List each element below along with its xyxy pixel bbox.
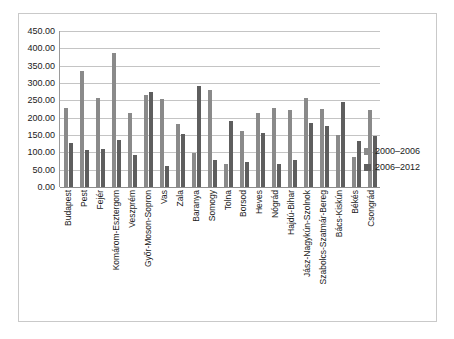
bar-series-1[interactable] (80, 71, 84, 187)
bar-series-1[interactable] (336, 135, 340, 187)
x-axis-label-slot: Szabolcs-Szatmár-Bereg (315, 190, 331, 290)
x-axis-label-slot: Budapest (60, 190, 76, 290)
bar-series-1[interactable] (144, 95, 148, 187)
bar-group (348, 31, 364, 187)
bar-series-1[interactable] (304, 98, 308, 187)
bar-series-2[interactable] (117, 140, 121, 187)
legend-label: 2006–2012 (375, 163, 420, 172)
chart-frame: 450.00400.00350.00300.00250.00200.00150.… (18, 13, 437, 322)
y-axis-tick-label: 50.00 (0, 166, 55, 175)
bar-series-1[interactable] (64, 108, 68, 187)
bar-series-2[interactable] (325, 126, 329, 187)
bar-series-2[interactable] (261, 133, 265, 187)
bar-series-1[interactable] (176, 124, 180, 187)
y-axis-tick-label: 300.00 (0, 79, 55, 88)
bar-group (109, 31, 125, 187)
bar-series-2[interactable] (309, 123, 313, 187)
x-axis-label-slot: Fejér (92, 190, 108, 290)
legend-swatch-icon (364, 164, 371, 171)
bar-group (316, 31, 332, 187)
bar-group (268, 31, 284, 187)
bar-series-1[interactable] (128, 113, 132, 187)
bar-series-2[interactable] (85, 150, 89, 187)
y-axis-tick-label: 400.00 (0, 44, 55, 53)
bar-series-2[interactable] (341, 102, 345, 187)
bar-group (252, 31, 268, 187)
x-axis-category-label: Fejér (96, 190, 105, 209)
x-axis-label-slot: Csongrád (363, 190, 379, 290)
x-axis-category-label: Borsod (239, 190, 248, 217)
bar-series-1[interactable] (256, 113, 260, 187)
bar-series-2[interactable] (197, 86, 201, 187)
y-axis-tick-label: 0.00 (0, 183, 55, 192)
x-axis-category-label: Veszprém (128, 190, 137, 228)
bar-group (157, 31, 173, 187)
plot-area (59, 31, 379, 187)
bar-group (93, 31, 109, 187)
x-axis-label-slot: Jász-Nagykún-Szolnok (299, 190, 315, 290)
bar-series-2[interactable] (101, 149, 105, 187)
x-axis-category-label: Tolna (223, 190, 232, 210)
x-axis-label-slot: Borsod (235, 190, 251, 290)
bar-group (61, 31, 77, 187)
bar-series-2[interactable] (69, 143, 73, 187)
bar-series-2[interactable] (357, 141, 361, 187)
bar-series-1[interactable] (224, 164, 228, 187)
bar-series-1[interactable] (160, 99, 164, 187)
x-axis-label-slot: Bács-Kiskún (331, 190, 347, 290)
x-axis-category-label: Szabolcs-Szatmár-Bereg (319, 190, 328, 284)
y-axis-tick-label: 250.00 (0, 96, 55, 105)
bar-group (141, 31, 157, 187)
bar-series-1[interactable] (288, 110, 292, 187)
bar-series-1[interactable] (240, 131, 244, 187)
x-axis-label-slot: Pest (76, 190, 92, 290)
x-axis-category-label: Vas (159, 190, 168, 204)
bar-series-1[interactable] (192, 153, 196, 187)
x-axis-label-slot: Komárom-Esztergom (108, 190, 124, 290)
x-axis-category-label: Hajdú-Bihar (287, 190, 296, 235)
x-axis-category-label: Baranya (191, 190, 200, 222)
bar-group (300, 31, 316, 187)
x-axis-label-slot: Zala (172, 190, 188, 290)
x-axis-label-slot: Veszprém (124, 190, 140, 290)
bar-series-1[interactable] (96, 98, 100, 187)
x-axis-category-label: Bács-Kiskún (335, 190, 344, 237)
bar-series-2[interactable] (133, 155, 137, 187)
legend-label: 2000–2006 (375, 147, 420, 156)
legend-item[interactable]: 2000–2006 (364, 147, 420, 156)
bar-series-2[interactable] (181, 134, 185, 187)
legend-swatch-icon (364, 148, 371, 155)
x-axis-label-slot: Békés (347, 190, 363, 290)
bar-series-1[interactable] (208, 90, 212, 187)
axis-baseline (60, 187, 380, 188)
bar-series-1[interactable] (320, 109, 324, 187)
bar-series-1[interactable] (112, 53, 116, 187)
x-axis-category-labels: BudapestPestFejérKomárom-EsztergomVeszpr… (60, 190, 379, 290)
bar-series-2[interactable] (277, 164, 281, 187)
bar-series-1[interactable] (272, 108, 276, 187)
plot-region: 450.00400.00350.00300.00250.00200.00150.… (59, 31, 379, 187)
y-axis-tick-label: 150.00 (0, 131, 55, 140)
bar-series-2[interactable] (149, 92, 153, 187)
x-axis-category-label: Budapest (64, 190, 73, 226)
bar-group (236, 31, 252, 187)
x-axis-category-label: Komárom-Esztergom (112, 190, 121, 270)
y-axis-tick-label: 200.00 (0, 114, 55, 123)
y-axis-tick-label: 100.00 (0, 148, 55, 157)
bar-group (189, 31, 205, 187)
bar-series-2[interactable] (229, 121, 233, 187)
legend-item[interactable]: 2006–2012 (364, 163, 420, 172)
bar-group (332, 31, 348, 187)
bar-series-2[interactable] (213, 160, 217, 187)
bar-series-2[interactable] (165, 166, 169, 187)
x-axis-category-label: Békés (351, 190, 360, 214)
bar-series-1[interactable] (352, 157, 356, 187)
bar-series-2[interactable] (245, 162, 249, 187)
x-axis-category-label: Zala (175, 190, 184, 207)
bar-group (221, 31, 237, 187)
bar-group (173, 31, 189, 187)
bar-group (284, 31, 300, 187)
x-axis-category-label: Somogy (207, 190, 216, 221)
bar-series-2[interactable] (293, 160, 297, 187)
bar-group (77, 31, 93, 187)
